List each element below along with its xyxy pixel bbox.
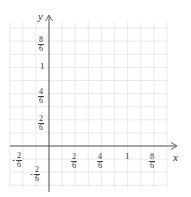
y-tick-neg-2-6: -26 bbox=[30, 166, 40, 183]
x-tick-4-6: 46 bbox=[97, 152, 103, 170]
y-tick-1: 1 bbox=[40, 62, 45, 71]
x-tick-neg-2-6: -26 bbox=[12, 152, 22, 169]
x-tick-1: 1 bbox=[125, 152, 130, 161]
x-axis-label: x bbox=[173, 151, 178, 163]
y-axis-label: y bbox=[38, 10, 43, 22]
x-tick-8-6: 86 bbox=[149, 152, 155, 170]
coordinate-grid bbox=[0, 0, 191, 197]
y-tick-4-6: 46 bbox=[38, 87, 44, 105]
grid-lines bbox=[10, 22, 167, 188]
x-tick-2-6: 26 bbox=[71, 152, 77, 170]
y-tick-8-6: 86 bbox=[38, 35, 44, 53]
y-tick-2-6: 26 bbox=[38, 114, 44, 132]
